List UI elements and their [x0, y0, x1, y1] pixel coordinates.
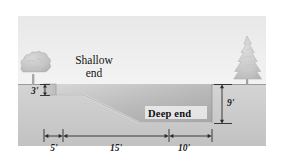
pool-diagram-figure: Shallow end Deep end 3' 9' 5' 15' 10' — [0, 0, 283, 162]
shallow-depth-label: 3' — [31, 86, 38, 97]
sky-region — [18, 16, 266, 84]
dimension-label-slope-run: 15' — [103, 143, 129, 153]
shallow-end-label: Shallow end — [57, 54, 131, 80]
deep-end-label: Deep end — [148, 108, 191, 120]
pool-diagram-canvas — [0, 0, 283, 162]
dimension-label-shallow-run: 5' — [43, 143, 65, 153]
dimension-label-deep-run: 10' — [171, 143, 197, 153]
shallow-end-label-line2: end — [86, 67, 103, 79]
deep-depth-label: 9' — [227, 98, 234, 109]
shallow-end-label-line1: Shallow — [75, 54, 113, 66]
